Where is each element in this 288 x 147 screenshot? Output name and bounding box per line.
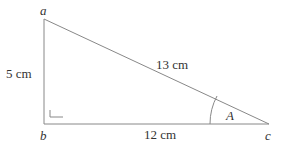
side-ab-label: 5 cm [6,66,32,81]
angle-a-label: A [225,108,234,123]
vertex-c-label: c [265,128,271,143]
vertex-a-label: a [40,3,47,18]
angle-arc [210,96,217,124]
side-ac-label: 13 cm [156,57,188,72]
triangle-diagram: a b c 5 cm 13 cm 12 cm A [0,0,288,147]
right-angle-marker [50,110,63,117]
vertex-b-label: b [40,128,47,143]
side-bc-label: 12 cm [144,127,176,142]
